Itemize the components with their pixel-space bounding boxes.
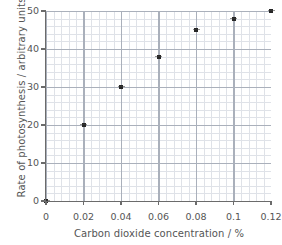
y-axis-line (45, 10, 46, 202)
y-tick-mark (41, 48, 45, 49)
y-tick-label: 20 (5, 120, 39, 130)
y-tick-mark (41, 124, 45, 125)
data-point (81, 123, 86, 128)
data-point (269, 9, 274, 14)
data-point (119, 85, 124, 90)
x-tick-label: 0.02 (73, 211, 94, 222)
data-point (194, 28, 199, 33)
x-tick-label-wrap: 0.04 (101, 205, 141, 224)
y-tick-label: 10 (5, 158, 39, 168)
y-tick-label-wrap: 30 (0, 82, 39, 92)
data-point (231, 16, 236, 21)
y-tick-mark (41, 162, 45, 163)
x-tick-label-wrap: 0.1 (214, 205, 254, 224)
y-axis-label: Rate of photosynthesis / arbitrary units (16, 0, 27, 203)
y-tick-label-wrap: 50 (0, 6, 39, 16)
y-tick-mark (41, 86, 45, 87)
scatter-chart-figure: Rate of photosynthesis / arbitrary units… (0, 0, 282, 245)
x-tick-label-wrap: 0.02 (64, 205, 104, 224)
y-tick-label-wrap: 40 (0, 44, 39, 54)
x-tick-label: 0.06 (148, 211, 169, 222)
y-tick-label: 50 (5, 6, 39, 16)
x-tick-label: 0.12 (260, 211, 281, 222)
x-tick-label: 0 (43, 211, 49, 222)
plot-area (46, 11, 271, 201)
x-tick-label-wrap: 0.06 (139, 205, 179, 224)
x-tick-label-wrap: 0.08 (176, 205, 216, 224)
data-point (156, 54, 161, 59)
y-tick-mark (41, 10, 45, 11)
x-tick-label-wrap: 0 (26, 205, 66, 224)
y-tick-mark (41, 200, 45, 201)
y-tick-label-wrap: 10 (0, 158, 39, 168)
y-tick-label: 30 (5, 82, 39, 92)
x-tick-label: 0.04 (110, 211, 131, 222)
x-tick-label: 0.1 (226, 211, 241, 222)
x-axis-label: Carbon dioxide concentration / % (46, 228, 272, 239)
x-tick-label-wrap: 0.12 (251, 205, 282, 224)
y-tick-label: 40 (5, 44, 39, 54)
x-tick-label: 0.08 (185, 211, 206, 222)
y-tick-label-wrap: 20 (0, 120, 39, 130)
